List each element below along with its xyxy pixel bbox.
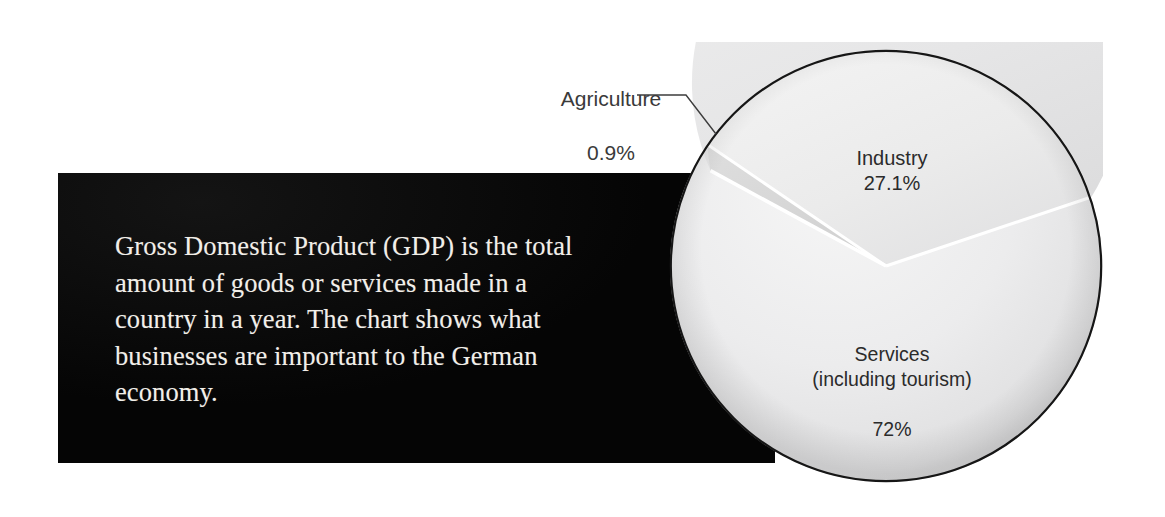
pie-label-agriculture-value: 0.9% [536,140,686,167]
pie-label-industry-name: Industry [856,147,927,169]
caption-text: Gross Domestic Product (GDP) is the tota… [115,228,585,411]
pie-label-services: Services (including tourism) 72% [781,317,1003,442]
pie-label-agriculture: Agriculture 0.9% [536,59,686,193]
pie-label-services-value: 72% [872,418,911,440]
pie-label-services-name: Services [855,343,930,365]
pie-label-services-sub: (including tourism) [781,367,1003,392]
pie-label-agriculture-name: Agriculture [536,86,686,113]
gdp-infographic: Gross Domestic Product (GDP) is the tota… [0,0,1165,517]
pie-label-industry: Industry 27.1% [822,120,962,197]
pie-label-industry-value: 27.1% [864,172,921,194]
